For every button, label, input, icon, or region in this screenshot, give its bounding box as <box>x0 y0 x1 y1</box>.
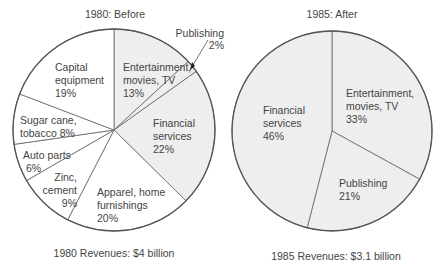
label-pub-1980: Publishing 2% <box>176 27 225 51</box>
svg-text:20%: 20% <box>97 212 118 224</box>
left-chart-title: 1980: Before <box>85 8 145 20</box>
svg-text:Capital: Capital <box>55 61 88 73</box>
svg-text:6%: 6% <box>26 162 41 174</box>
left-chart-caption: 1980 Revenues: $4 billion <box>54 247 175 259</box>
svg-text:Auto parts: Auto parts <box>23 149 71 161</box>
svg-text:19%: 19% <box>55 87 76 99</box>
svg-text:Publishing: Publishing <box>339 177 388 189</box>
svg-text:Entertainment,: Entertainment, <box>346 87 414 99</box>
svg-text:9%: 9% <box>62 197 77 209</box>
svg-text:furnishings: furnishings <box>97 199 148 211</box>
svg-text:Entertainment,: Entertainment, <box>123 61 191 73</box>
svg-text:movies, TV: movies, TV <box>123 74 175 86</box>
right-chart-caption: 1985 Revenues: $3.1 billion <box>271 250 401 262</box>
svg-text:movies, TV: movies, TV <box>346 100 398 112</box>
svg-text:services: services <box>153 130 192 142</box>
svg-text:46%: 46% <box>263 130 284 142</box>
svg-text:Apparel, home: Apparel, home <box>97 186 165 198</box>
svg-text:Financial: Financial <box>263 104 305 116</box>
label-sugar-1980: Sugar cane, tobacco 8% <box>20 114 77 139</box>
svg-text:services: services <box>263 117 302 129</box>
svg-text:Financial: Financial <box>153 117 195 129</box>
pie-charts: 1980: Before 1980 Revenues: $4 billion E… <box>0 0 447 274</box>
svg-text:cement: cement <box>43 184 78 196</box>
svg-text:33%: 33% <box>346 113 367 125</box>
svg-text:Sugar cane,: Sugar cane, <box>20 114 77 126</box>
svg-text:13%: 13% <box>123 87 144 99</box>
svg-text:tobacco 8%: tobacco 8% <box>20 127 75 139</box>
right-chart-title: 1985: After <box>307 8 358 20</box>
svg-text:Zinc,: Zinc, <box>54 171 77 183</box>
svg-text:21%: 21% <box>339 190 360 202</box>
svg-text:Publishing: Publishing <box>176 27 225 39</box>
svg-text:equipment: equipment <box>55 74 104 86</box>
svg-text:22%: 22% <box>153 143 174 155</box>
svg-text:2%: 2% <box>209 39 224 51</box>
pie-1985 <box>232 31 432 231</box>
